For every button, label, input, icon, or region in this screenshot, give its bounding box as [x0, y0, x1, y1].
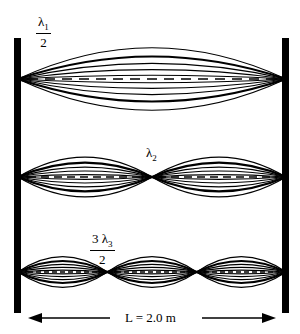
mode-3-label: 3 λ3 2: [90, 231, 115, 268]
mode-3-envelope: [18, 257, 286, 288]
mode-1-envelope: [18, 48, 286, 111]
mode-1-label: λ1 2: [36, 14, 51, 51]
length-label: L = 2.0 m: [125, 311, 176, 324]
mode-2-envelope: [18, 157, 286, 197]
mode-2-label: λ2: [146, 146, 157, 163]
